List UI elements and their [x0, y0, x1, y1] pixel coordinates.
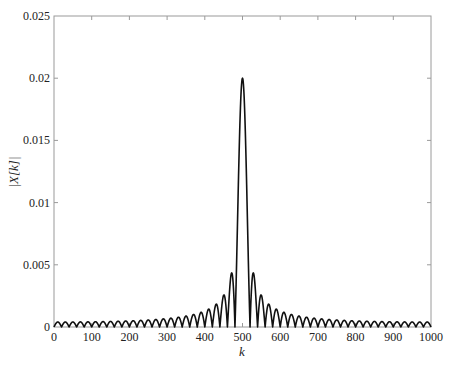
x-tick-label: 900 — [384, 330, 402, 344]
x-tick-label: 100 — [83, 330, 101, 344]
y-tick-label: 0.02 — [29, 71, 50, 85]
y-axis-ticks: 00.0050.010.0150.020.025 — [23, 9, 431, 334]
x-axis-label: k — [239, 344, 245, 359]
y-tick-label: 0.01 — [29, 196, 50, 210]
y-tick-label: 0.005 — [23, 258, 50, 272]
chart: 00.0050.010.0150.020.025 010020030040050… — [0, 0, 451, 367]
plot-frame — [54, 16, 431, 327]
x-tick-label: 600 — [271, 330, 289, 344]
y-axis-label: |X[k]| — [6, 157, 21, 188]
x-tick-label: 700 — [309, 330, 327, 344]
x-tick-label: 300 — [158, 330, 176, 344]
x-tick-label: 1000 — [419, 330, 443, 344]
magnitude-curve — [54, 78, 431, 327]
y-tick-label: 0.015 — [23, 133, 50, 147]
x-tick-label: 200 — [120, 330, 138, 344]
x-tick-label: 800 — [347, 330, 365, 344]
y-tick-label: 0.025 — [23, 9, 50, 23]
x-tick-label: 0 — [51, 330, 57, 344]
y-tick-label: 0 — [44, 320, 50, 334]
x-tick-label: 400 — [196, 330, 214, 344]
x-tick-label: 500 — [234, 330, 252, 344]
